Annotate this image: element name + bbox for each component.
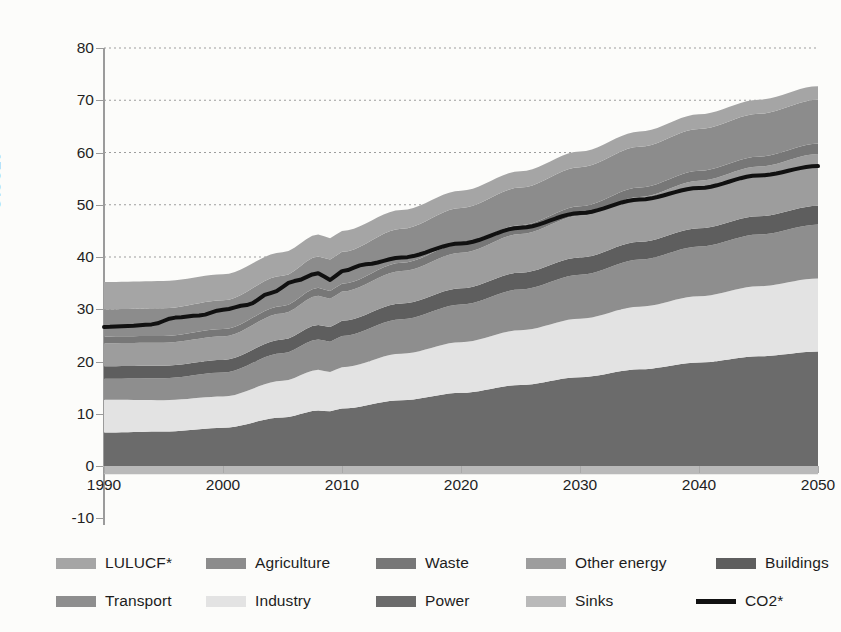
x-tick-mark	[342, 466, 343, 473]
legend-row-2: TransportIndustryPowerSinksCO2*	[56, 584, 836, 618]
y-tick-label: 30	[54, 300, 94, 318]
legend-label: CO2*	[745, 592, 783, 610]
x-tick-mark	[699, 466, 700, 473]
emissions-stacked-area-chart: GtCO2e 80706050403020100-10 199020002010…	[0, 0, 841, 540]
x-tick-label: 2000	[206, 476, 240, 494]
y-tick-label: 10	[54, 405, 94, 423]
y-axis-tick-labels: 80706050403020100-10	[50, 48, 94, 518]
legend-color-swatch-icon	[206, 596, 246, 607]
legend-label: Other energy	[575, 554, 667, 572]
x-tick-label: 1990	[87, 476, 121, 494]
x-tick-label: 2040	[682, 476, 716, 494]
chart-legend: LULUCF*AgricultureWasteOther energyBuild…	[0, 540, 841, 632]
legend-label: LULUCF*	[105, 554, 172, 572]
legend-color-swatch-icon	[206, 558, 246, 569]
y-tick-label: 0	[54, 457, 94, 475]
legend-color-swatch-icon	[376, 558, 416, 569]
legend-item-buildings[interactable]: Buildings	[716, 546, 829, 580]
legend-color-swatch-icon	[526, 558, 566, 569]
legend-color-swatch-icon	[376, 596, 416, 607]
y-axis-title: GtCO2e	[0, 152, 3, 210]
legend-color-swatch-icon	[716, 558, 756, 569]
y-tick-label: -10	[54, 509, 94, 527]
legend-item-agriculture[interactable]: Agriculture	[206, 546, 330, 580]
chart-page: GtCO2e 80706050403020100-10 199020002010…	[0, 0, 841, 632]
legend-label: Power	[425, 592, 469, 610]
x-tick-label: 2020	[444, 476, 478, 494]
legend-item-waste[interactable]: Waste	[376, 546, 469, 580]
legend-label: Industry	[255, 592, 311, 610]
legend-color-swatch-icon	[56, 596, 96, 607]
x-axis-tick-labels: 1990200020102020203020402050	[104, 476, 818, 498]
legend-color-swatch-icon	[526, 596, 566, 607]
legend-item-industry[interactable]: Industry	[206, 584, 311, 618]
legend-line-swatch-icon	[696, 599, 736, 604]
legend-item-sinks[interactable]: Sinks	[526, 584, 613, 618]
legend-row-1: LULUCF*AgricultureWasteOther energyBuild…	[56, 546, 836, 580]
y-tick-label: 20	[54, 353, 94, 371]
y-tick-label: 70	[54, 91, 94, 109]
legend-label: Agriculture	[255, 554, 330, 572]
legend-label: Sinks	[575, 592, 613, 610]
legend-item-other-energy[interactable]: Other energy	[526, 546, 667, 580]
x-tick-mark	[818, 466, 819, 473]
x-tick-mark	[223, 466, 224, 473]
plot-svg	[104, 48, 818, 466]
legend-label: Transport	[105, 592, 172, 610]
plot-area	[104, 48, 818, 466]
legend-item-transport[interactable]: Transport	[56, 584, 172, 618]
x-tick-mark	[580, 466, 581, 473]
legend-label: Waste	[425, 554, 469, 572]
y-tick-label: 80	[54, 39, 94, 57]
legend-label: Buildings	[765, 554, 829, 572]
x-tick-mark	[104, 466, 105, 473]
x-tick-label: 2030	[563, 476, 597, 494]
legend-item-co2[interactable]: CO2*	[696, 584, 783, 618]
y-tick-label: 60	[54, 144, 94, 162]
y-tick-label: 50	[54, 196, 94, 214]
legend-item-power[interactable]: Power	[376, 584, 469, 618]
x-tick-label: 2010	[325, 476, 359, 494]
legend-color-swatch-icon	[56, 558, 96, 569]
x-tick-label: 2050	[801, 476, 835, 494]
x-tick-mark	[461, 466, 462, 473]
legend-item-lulucf[interactable]: LULUCF*	[56, 546, 172, 580]
y-tick-label: 40	[54, 248, 94, 266]
